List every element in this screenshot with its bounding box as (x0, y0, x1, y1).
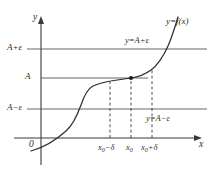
lower-level-label: y=A−ε (146, 114, 170, 123)
y-tick-label-a-minus-epsilon: A−ε (7, 103, 22, 112)
function-curve (31, 17, 178, 151)
limit-definition-figure: y x 0 A+ε A A−ε x0−δ x0 x0+δ y=f(x) y=A+… (0, 0, 217, 179)
curve-label: y=f(x) (166, 17, 189, 26)
x-tick-tail-x0-plus-delta: +δ (148, 142, 158, 152)
x-tick-tail-x0-minus-delta: −δ (105, 142, 115, 152)
upper-level-label: y=A+ε (125, 36, 149, 45)
y-axis-arrowhead (38, 16, 44, 24)
x-tick-label-x0-minus-delta: x0−δ (98, 143, 115, 153)
limit-point-dot (129, 76, 133, 80)
y-tick-label-a: A (25, 72, 31, 81)
x-tick-label-x0: x0 (126, 143, 133, 153)
x-tick-sub-x0: 0 (130, 147, 133, 153)
y-tick-label-a-plus-epsilon: A+ε (7, 43, 22, 52)
origin-label: 0 (29, 140, 34, 150)
y-axis-label: y (33, 13, 37, 23)
x-axis-label: x (199, 140, 203, 150)
x-tick-label-x0-plus-delta: x0+δ (141, 143, 158, 153)
